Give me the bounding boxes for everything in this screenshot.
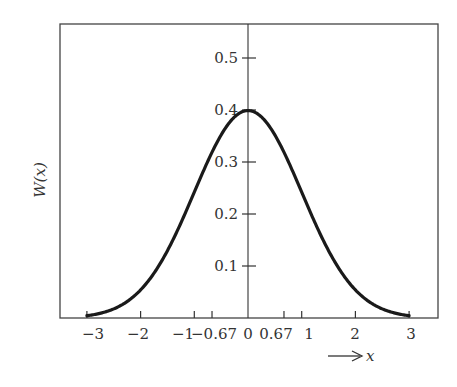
x-tick-label: −2 (127, 325, 149, 343)
x-tick-label: 0.67 (259, 325, 292, 343)
x-tick-label: 1 (304, 325, 314, 343)
x-ticks: −3−2−1−0.6700.67123 (82, 311, 416, 343)
y-tick-label: 0.3 (214, 153, 238, 171)
plot-frame (60, 24, 438, 318)
x-tick-label: 3 (406, 325, 416, 343)
x-tick-label: −0.67 (191, 325, 237, 343)
x-axis-arrow (328, 351, 362, 361)
x-axis-title: x (366, 347, 375, 365)
y-ticks: 0.10.20.30.40.5 (214, 49, 256, 275)
y-tick-label: 0.1 (214, 257, 238, 275)
y-tick-label: 0.2 (214, 205, 238, 223)
x-tick-label: −3 (82, 325, 104, 343)
y-tick-label: 0.5 (214, 49, 238, 67)
chart-root: 0.10.20.30.40.5 −3−2−1−0.6700.67123 W(x)… (0, 0, 457, 387)
x-tick-label: 2 (350, 325, 360, 343)
y-axis-title: W(x) (31, 162, 49, 198)
x-tick-label: 0 (243, 325, 253, 343)
